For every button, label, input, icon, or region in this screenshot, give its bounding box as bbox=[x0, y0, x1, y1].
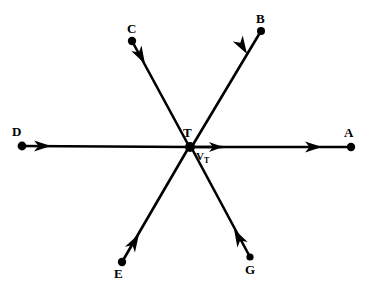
endpoint-dot-e bbox=[118, 258, 126, 266]
label-b: B bbox=[256, 12, 265, 25]
ray-line-b bbox=[191, 31, 261, 148]
endpoint-dot-a bbox=[347, 143, 355, 151]
label-d: D bbox=[12, 125, 21, 138]
label-a: A bbox=[344, 126, 353, 139]
label-c: C bbox=[127, 22, 136, 35]
endpoint-dot-b bbox=[257, 27, 265, 35]
center-node-t bbox=[185, 142, 195, 152]
arrowheads bbox=[34, 36, 322, 253]
label-center-t: T bbox=[183, 126, 192, 139]
arrowhead-g bbox=[229, 226, 248, 247]
endpoint-dot-g bbox=[246, 253, 253, 260]
endpoint-dot-c bbox=[128, 37, 136, 45]
arrowhead-e bbox=[125, 231, 144, 252]
label-g: G bbox=[245, 263, 255, 276]
label-e: E bbox=[114, 267, 123, 280]
velocity-label-v: V bbox=[196, 150, 204, 162]
arrowhead-c bbox=[131, 45, 150, 66]
endpoint-dot-d bbox=[18, 142, 27, 151]
arrowhead-b bbox=[233, 36, 252, 57]
velocity-label-subscript: T bbox=[204, 156, 209, 165]
label-velocity-vt: VT bbox=[196, 151, 209, 165]
vector-diagram: A B C D E G T VT bbox=[0, 0, 370, 300]
vector-diagram-canvas bbox=[0, 0, 370, 300]
